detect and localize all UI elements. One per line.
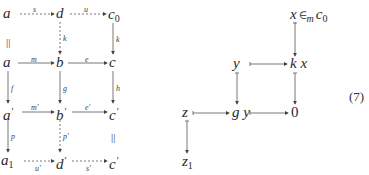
edge-label-e: e [85, 56, 89, 64]
member-of-sub: m [307, 13, 314, 24]
node-x-membership: x∈mc0 [290, 7, 327, 26]
edge-label-u-prime: u′ [35, 165, 41, 173]
node-a1-base: a [1, 152, 9, 168]
node-c0-base: c [108, 6, 115, 22]
node-b-prime-base: b [56, 107, 64, 123]
edge-label-equals-col3: || [111, 133, 115, 141]
prime-mark: ′ [65, 155, 67, 166]
node-a-row2: a [3, 55, 11, 70]
node-z1: z1 [182, 154, 193, 173]
node-a-row1: a [3, 6, 11, 21]
node-zero: 0 [291, 105, 299, 120]
prime-mark: ′ [117, 106, 119, 117]
node-z1-sub: 1 [188, 160, 193, 171]
edge-label-p: p [11, 133, 15, 141]
edge-label-p-prime: p′ [63, 133, 69, 141]
edge-label-k-col2: k [63, 35, 67, 43]
node-b-row2: b [56, 55, 64, 70]
node-a-prime-row3: a′ [3, 104, 14, 123]
prime-mark: ′ [12, 106, 14, 117]
node-y: y [233, 56, 240, 71]
prime-mark: ′ [65, 106, 67, 117]
edge-label-e-prime: e′ [85, 104, 90, 112]
edge-label-u: u [84, 6, 88, 14]
node-a1-row4: a1 [1, 153, 14, 172]
node-b-prime-row3: b′ [56, 104, 67, 123]
node-c-prime-base: c [109, 107, 116, 123]
edge-label-m: m [31, 56, 37, 64]
node-d-prime-base: d [56, 156, 64, 172]
node-z: z [182, 105, 188, 120]
equation-number: (7) [349, 89, 364, 105]
node-c-prime-row4: c′ [109, 153, 119, 172]
edge-label-s: s [33, 6, 36, 14]
node-kx: k x [290, 56, 307, 71]
node-c0-row1: c0 [108, 7, 120, 26]
node-c-prime-base: c [109, 156, 116, 172]
edge-label-equals-col1: || [6, 38, 10, 46]
node-c-prime-row3: c′ [109, 104, 119, 123]
edge-label-k-col3: k [116, 36, 120, 44]
node-gy: g y [232, 105, 250, 120]
node-c0-sub: 0 [115, 13, 120, 24]
node-x: x [290, 6, 297, 22]
member-of-symbol: ∈ [299, 8, 307, 22]
edge-label-g: g [63, 85, 67, 93]
edge-label-f: f [11, 85, 13, 93]
node-a-prime-base: a [3, 107, 11, 123]
edge-label-m-prime: m′ [31, 104, 39, 112]
node-d-row1: d [56, 6, 64, 21]
node-c-row2: c [109, 55, 116, 70]
node-d-prime-row4: d′ [56, 153, 67, 172]
edge-label-s-prime: s′ [86, 165, 91, 173]
prime-mark: ′ [117, 155, 119, 166]
node-c0-target-sub: 0 [322, 13, 327, 24]
node-a1-sub: 1 [9, 159, 14, 170]
edge-label-h: h [116, 85, 120, 93]
diagram-arrows [0, 0, 369, 175]
